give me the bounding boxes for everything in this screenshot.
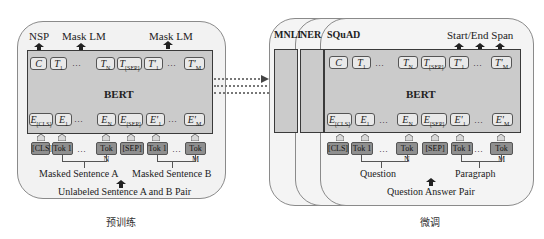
- input-token-cls: [CLS]: [327, 142, 349, 155]
- ellipsis: …: [168, 114, 177, 124]
- segment-label-b: Paragraph: [455, 168, 496, 179]
- segment-label-a: Question: [360, 168, 396, 179]
- embedding-n: EN: [97, 113, 116, 126]
- embedding-sep: E[SEP]: [118, 113, 143, 126]
- caption-pretrain: 预训练: [106, 214, 136, 229]
- embedding-m-prime: E'M: [184, 113, 205, 126]
- input-token-tok1-b: Tok 1: [451, 142, 473, 155]
- task-tab-squad[interactable]: SQuAD: [327, 29, 360, 40]
- connector-icon: [336, 134, 344, 141]
- input-token-tokm: Tok M: [490, 142, 513, 155]
- input-token-sep: [SEP]: [120, 142, 144, 155]
- output-token-tsep: T[SEP]: [421, 56, 446, 69]
- connector-icon: [127, 134, 135, 141]
- input-token-sep: [SEP]: [422, 142, 448, 155]
- ellipsis: …: [172, 144, 181, 154]
- segment-bracket-b: [157, 155, 196, 162]
- connector-icon: [431, 134, 439, 141]
- input-token-tokn: Tok N: [96, 142, 117, 155]
- input-token-cls: [CLS]: [31, 142, 50, 155]
- connector-icon: [405, 134, 413, 141]
- connector-icon: [361, 134, 369, 141]
- ellipsis: …: [167, 58, 176, 68]
- output-token-t1-prime: T'1: [449, 56, 469, 69]
- ellipsis: …: [74, 114, 83, 124]
- ellipsis: …: [379, 144, 388, 154]
- ellipsis: …: [375, 58, 384, 68]
- connector-icon: [456, 134, 464, 141]
- up-arrow-icon: [163, 41, 173, 49]
- output-token-t1: T1: [352, 56, 371, 69]
- bert-label-pretrain: BERT: [104, 88, 134, 100]
- nsp-label: NSP: [29, 30, 49, 42]
- bert-model-ner: [300, 49, 324, 133]
- arrow-head-icon: [261, 75, 269, 83]
- task-tab-ner[interactable]: NER: [300, 29, 321, 40]
- up-arrow-icon: [426, 178, 436, 186]
- embedding-cls: E[CLS]: [327, 113, 352, 126]
- input-label-pretrain: Unlabeled Sentence A and B Pair: [58, 186, 191, 197]
- embedding-1-prime: E'1: [146, 113, 165, 126]
- input-token-tok1: Tok 1: [351, 142, 373, 155]
- output-token-tsep: T[SEP]: [117, 57, 142, 70]
- output-token-tm-prime: T'M: [491, 56, 512, 69]
- output-token-tn: TN: [96, 57, 115, 70]
- input-token-tokn: Tok N: [396, 142, 418, 155]
- ellipsis: …: [72, 58, 81, 68]
- segment-label-b: Masked Sentence B: [132, 168, 211, 179]
- output-token-t1: T1: [50, 57, 67, 70]
- connector-icon: [37, 134, 45, 141]
- output-token-tm-prime: T'M: [184, 57, 205, 70]
- embedding-cls: E[CLS]: [29, 113, 53, 126]
- bert-model-mnli: [274, 49, 298, 133]
- connector-icon: [152, 134, 160, 141]
- segment-label-a: Masked Sentence A: [39, 168, 118, 179]
- connector-icon: [191, 134, 199, 141]
- output-token-c: C: [30, 57, 47, 70]
- input-token-tok1-b: Tok 1: [147, 142, 168, 155]
- connector-icon: [58, 134, 66, 141]
- caption-finetune: 微调: [420, 214, 440, 229]
- ellipsis: …: [77, 144, 86, 154]
- bert-label-finetune: BERT: [406, 88, 436, 100]
- segment-bracket-b: [461, 155, 502, 162]
- task-tab-mnli[interactable]: MNLI: [274, 29, 301, 40]
- input-token-tokm: Tok M: [185, 142, 206, 155]
- output-label-finetune: Start/End Span: [447, 29, 513, 41]
- segment-bracket-a: [62, 155, 107, 162]
- segment-bracket-a: [361, 155, 408, 162]
- embedding-1: E1: [355, 113, 375, 126]
- output-token-t1-prime: T'1: [144, 57, 163, 70]
- ellipsis: …: [379, 115, 388, 125]
- ellipsis: …: [473, 58, 482, 68]
- ellipsis: …: [474, 144, 483, 154]
- embedding-1: E1: [55, 113, 72, 126]
- input-label-finetune: Question Answer Pair: [387, 186, 475, 197]
- mask-lm-label-1: Mask LM: [62, 30, 106, 42]
- embedding-m-prime: E'M: [492, 113, 513, 126]
- embedding-1-prime: E'1: [450, 113, 470, 126]
- dotted-connector: [214, 78, 264, 80]
- connector-icon: [497, 134, 505, 141]
- embedding-sep: E[SEP]: [421, 113, 447, 126]
- ellipsis: …: [474, 115, 483, 125]
- connector-icon: [102, 134, 110, 141]
- embedding-n: EN: [397, 113, 418, 126]
- output-token-tn: TN: [398, 56, 418, 69]
- input-token-tok1: Tok 1: [52, 142, 73, 155]
- output-token-c: C: [329, 56, 348, 69]
